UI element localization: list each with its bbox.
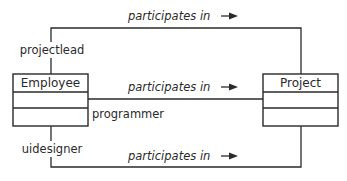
association-programmer: programmer participates in <box>88 80 263 121</box>
arrow-right-icon <box>221 13 238 20</box>
association-uidesigner: uidesigner participates in <box>22 126 301 167</box>
role-programmer: programmer <box>92 107 164 121</box>
arrow-right-icon <box>221 84 238 91</box>
association-projectlead: projectlead participates in <box>18 9 301 74</box>
association-name-3: participates in <box>127 149 210 163</box>
class-project: Project <box>263 74 338 126</box>
role-projectlead: projectlead <box>20 43 85 57</box>
association-name-2: participates in <box>127 80 210 94</box>
role-uidesigner: uidesigner <box>22 142 83 156</box>
class-name-project: Project <box>280 76 321 90</box>
class-name-employee: Employee <box>21 76 80 90</box>
uml-diagram: Employee Project projectlead participate… <box>0 0 347 181</box>
class-employee: Employee <box>13 74 88 126</box>
association-name-1: participates in <box>127 9 210 23</box>
arrow-right-icon <box>221 153 238 160</box>
